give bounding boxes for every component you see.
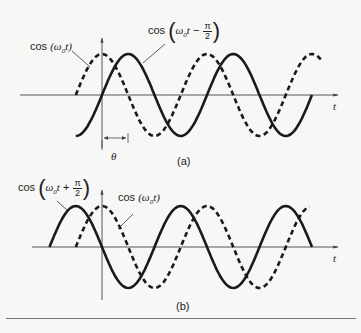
panel-a-solid-leader: [143, 44, 165, 63]
panel-b-solid-label: cos (ω0t + π2): [18, 175, 90, 201]
panel-b-dashed-label: cos (ω0t): [118, 191, 160, 206]
theta-label: θ: [111, 150, 116, 162]
panel-b-solid-leader: [57, 201, 68, 211]
panel-b: [32, 190, 338, 300]
panel-b-t-axis-label: t: [333, 252, 336, 264]
panel-a-caption: (a): [177, 155, 190, 167]
panel-a-dashed-label: cos (ω0t): [30, 40, 72, 55]
panel-b-caption: (b): [176, 300, 189, 312]
figure: cos (ω0t) cos (ω0t − π2) θ t (a) cos (ω0…: [0, 0, 361, 333]
bottom-divider: [6, 318, 356, 319]
panel-b-dashed-leader: [118, 214, 133, 229]
panel-a-dashed-leader: [72, 51, 90, 67]
panel-a-t-axis-label: t: [333, 100, 336, 112]
panel-a-solid-label: cos (ω0t − π2): [148, 18, 220, 44]
